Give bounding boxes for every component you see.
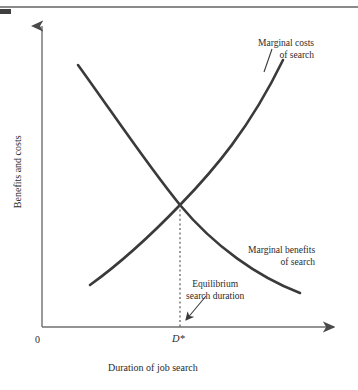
marginal-costs-label-line2: of search — [258, 50, 314, 62]
marginal-benefits-label-line2: of search — [248, 257, 315, 269]
marginal-costs-label-line1: Marginal costs — [258, 38, 314, 50]
marginal-benefits-label-line1: Marginal benefits — [248, 245, 315, 257]
job-search-equilibrium-figure: Marginal costs of search Marginal benefi… — [0, 0, 358, 390]
equilibrium-annotation: Equilibrium search duration — [186, 279, 244, 302]
equilibrium-annotation-line2: search duration — [186, 291, 244, 303]
x-axis-title: Duration of job search — [108, 362, 198, 374]
marginal-costs-label: Marginal costs of search — [258, 38, 314, 61]
marginal-benefits-label: Marginal benefits of search — [248, 245, 315, 268]
equilibrium-annotation-line1: Equilibrium — [186, 279, 244, 291]
origin-label: 0 — [35, 334, 40, 346]
y-axis-title: Benefits and costs — [12, 122, 24, 222]
x-axis-tick-label-dstar: D* — [172, 333, 185, 345]
